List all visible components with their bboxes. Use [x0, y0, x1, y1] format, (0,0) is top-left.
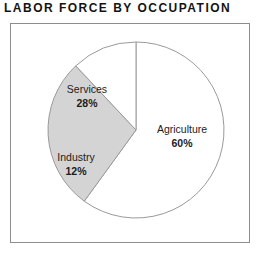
pie-label-industry: Industry 12% [44, 151, 108, 178]
pie-label-services-name: Services [67, 83, 107, 95]
chart-figure: LABOR FORCE BY OCCUPATION Agriculture 60… [0, 0, 265, 254]
pie-label-services-value: 28% [55, 97, 119, 111]
pie-label-agriculture-value: 60% [146, 137, 218, 151]
pie-label-agriculture-name: Agriculture [157, 123, 207, 135]
pie-chart [0, 0, 265, 254]
pie-label-industry-value: 12% [44, 165, 108, 179]
pie-label-industry-name: Industry [57, 151, 94, 163]
pie-label-agriculture: Agriculture 60% [146, 123, 218, 150]
pie-label-services: Services 28% [55, 83, 119, 110]
